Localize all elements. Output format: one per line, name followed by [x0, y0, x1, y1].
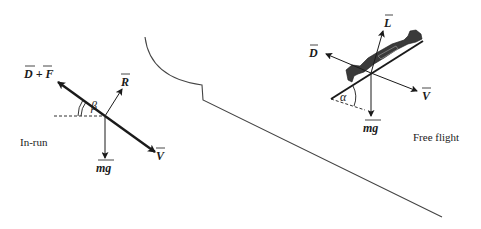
inrun-diagram: D + F R β mg V In-run: [20, 66, 165, 175]
label-lift: L: [383, 16, 391, 30]
label-inrun-gravity: mg: [96, 161, 111, 175]
reaction-arrow: [105, 89, 122, 116]
jumper-silhouette: [346, 30, 422, 82]
inrun-caption: In-run: [20, 136, 48, 148]
ski-jump-force-diagram: D + F R β mg V In-run D L α mg V Free fl…: [0, 0, 481, 229]
label-beta: β: [90, 99, 97, 113]
label-drag: D: [308, 46, 318, 60]
free-flight-diagram: D L α mg V Free flight: [308, 15, 459, 143]
label-alpha: α: [340, 90, 347, 104]
label-flight-velocity: V: [422, 89, 431, 103]
alpha-angle-arc: [353, 86, 356, 106]
hill-profile: [145, 37, 442, 217]
diagram-svg: D + F R β mg V In-run D L α mg V Free fl…: [0, 0, 481, 229]
label-inrun-velocity: V: [156, 149, 165, 163]
flight-velocity-arrow: [371, 73, 417, 91]
velocity-arrow: [105, 116, 155, 152]
free-flight-caption: Free flight: [413, 131, 459, 143]
label-flight-gravity: mg: [363, 121, 378, 135]
label-drag-plus-friction: D + F: [23, 67, 54, 81]
label-reaction: R: [120, 75, 129, 89]
beta-angle-arc: [81, 102, 86, 116]
flight-path-dashed-line: [331, 99, 365, 110]
